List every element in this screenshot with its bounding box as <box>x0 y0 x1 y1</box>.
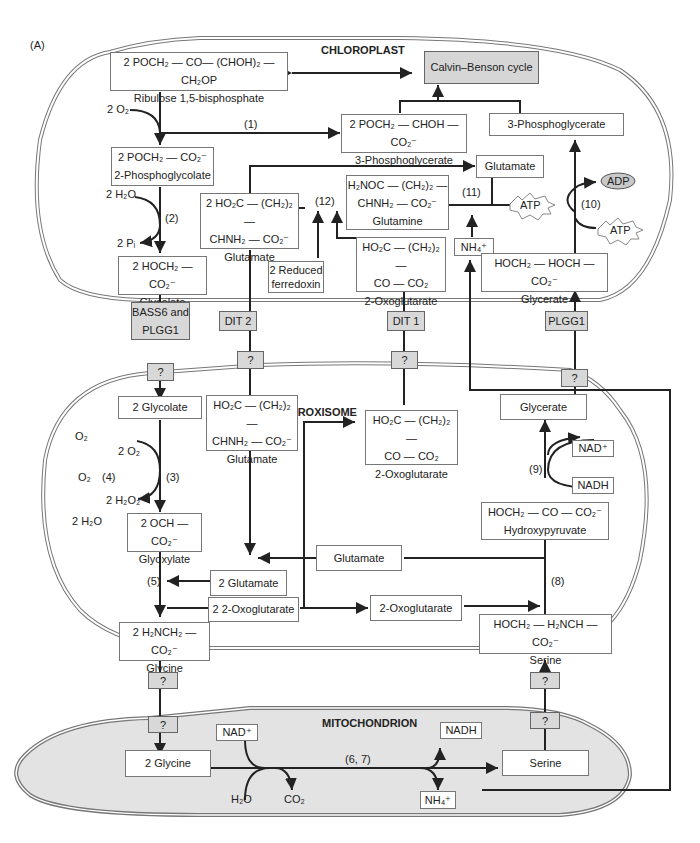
serine-mito-box: Serine <box>502 750 589 776</box>
rubp-box: 2 POCH₂ — CO— (CHOH)₂ —CH₂OP Ribulose 1,… <box>110 52 288 91</box>
calvin-benson-box: Calvin–Benson cycle <box>424 51 539 84</box>
atp-label-11: ATP <box>520 199 541 211</box>
step-8: (8) <box>551 575 564 587</box>
o2-label: 2 O₂ <box>107 103 129 115</box>
step-9: (9) <box>529 463 542 475</box>
pga-box: 3-Phosphoglycerate <box>489 113 624 136</box>
mitochondrion-title: MITOCHONDRION <box>322 717 417 729</box>
serine-pero-box: HOCH₂ — H₂NCH — CO₂⁻ Serine <box>479 614 612 654</box>
figure-label: (A) <box>30 39 45 51</box>
glutamate-pero-box: HO₂C — (CH₂)₂ — CHNH₂ — CO₂⁻ Glutamate <box>206 395 298 451</box>
nadh-pero-box: NADH <box>572 477 614 494</box>
oxoglutarate-2-box: 2 2-Oxoglutarate <box>208 597 299 622</box>
transporter-dit1: DIT 1 <box>387 311 425 331</box>
glycerate-pero-box: Glycerate <box>500 394 587 420</box>
atp-label-10: ATP <box>610 224 631 236</box>
transporter-dit2: DIT 2 <box>219 311 257 331</box>
transporter-unknown: ? <box>391 351 418 369</box>
o2-label: O₂ <box>75 430 88 442</box>
hydroxypyruvate-box: HOCH₂ — CO — CO₂⁻ Hydroxypyruvate <box>481 502 609 540</box>
nadh-mito-box: NADH <box>440 722 482 739</box>
nad-pero-box: NAD⁺ <box>572 440 614 457</box>
glutamate-mid-box: Glutamate <box>316 545 402 571</box>
h2o-mito-label: H₂O <box>231 793 252 805</box>
glycerate-chloro-box: HOCH₂ — HOCH — CO₂⁻ Glycerate <box>481 253 608 292</box>
glyoxylate-box: 2 OCH — CO₂⁻ Glyoxylate <box>127 513 202 552</box>
transporter-unknown: ? <box>530 672 560 689</box>
glycine-pero-box: 2 H₂NCH₂ — CO₂⁻ Glycine <box>119 622 210 661</box>
nh4-mito-box: NH₄⁺ <box>420 791 456 809</box>
glycolate-pero-box: 2 Glycolate <box>118 396 202 419</box>
pi-label: 2 Pᵢ <box>117 237 135 249</box>
glycine-mito-box: 2 Glycine <box>125 750 211 777</box>
ferredoxin-box: 2 Reduced ferredoxin <box>268 261 324 293</box>
step-12: (12) <box>315 195 335 207</box>
glycolate-box: 2 HOCH₂ — CO₂⁻ Glycolate <box>118 256 207 295</box>
transporter-unknown: ? <box>237 351 264 369</box>
h2o-label: 2 H₂O <box>72 515 102 527</box>
transporter-unknown: ? <box>148 716 178 733</box>
o2-2-label: 2 O₂ <box>118 445 140 457</box>
chloroplast-title: CHLOROPLAST <box>321 44 405 56</box>
phosphoglycolate-box: 2 POCH₂ — CO₂⁻ 2-Phosphoglycolate <box>111 147 214 186</box>
step-2: (2) <box>165 212 178 224</box>
glutamate-chloro-box: Glutamate <box>476 155 544 178</box>
transporter-unknown: ? <box>147 363 174 381</box>
step-11: (11) <box>462 186 481 198</box>
transporter-unknown: ? <box>530 712 560 729</box>
glutamate-2-box: 2 Glutamate <box>210 570 287 596</box>
step-4: (4) <box>102 471 115 483</box>
co2-mito-label: CO₂ <box>284 793 305 805</box>
o2-label: O₂ <box>78 471 91 483</box>
pga2-box: 2 POCH₂ — CHOH — CO₂⁻ 3-Phosphoglycerate <box>341 114 467 153</box>
oxoglutarate-right-box: 2-Oxoglutarate <box>370 595 462 621</box>
oxoglutarate-chloro-box: HO₂C — (CH₂)₂ — CO — CO₂ 2-Oxoglutarate <box>356 237 446 292</box>
transporter-plgg1: PLGG1 <box>545 311 588 331</box>
h2o2-label: 2 H₂O₂ <box>106 494 140 506</box>
step-10: (10) <box>581 198 601 210</box>
transporter-unknown: ? <box>561 369 588 387</box>
step-1: (1) <box>244 118 257 130</box>
adp-label: ADP <box>607 175 630 187</box>
glutamate2-box: 2 HO₂C — (CH₂)₂ — CHNH₂ — CO₂⁻ Glutamate <box>200 193 299 249</box>
h2o-label: 2 H₂O <box>106 188 136 200</box>
glutamine-box: H₂NOC — (CH₂)₂ — CHNH₂ — CO₂⁻ Glutamine <box>346 175 449 230</box>
step-5: (5) <box>147 575 160 587</box>
transporter-bass6-plgg1: BASS6 and PLGG1 <box>131 302 190 340</box>
step-3: (3) <box>166 471 179 483</box>
step-6-7: (6, 7) <box>345 753 371 765</box>
nad-mito-box: NAD⁺ <box>216 724 258 741</box>
transporter-unknown: ? <box>148 672 178 689</box>
oxoglutarate-pero-box: HO₂C — (CH₂)₂ — CO — CO₂ 2-Oxoglutarate <box>365 410 458 465</box>
